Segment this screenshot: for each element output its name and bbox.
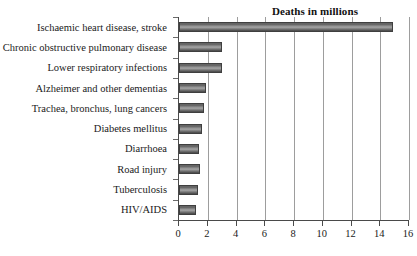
x-tick [379,221,380,226]
category-label: Trachea, bronchus, lung cancers [0,98,172,118]
x-tick-label: 10 [317,228,328,239]
bar [179,63,222,73]
x-tick-label: 6 [262,228,267,239]
x-tick [351,221,352,226]
chart-title: Deaths in millions [240,5,390,17]
gridline [409,17,410,220]
x-tick [408,221,409,226]
x-tick [264,221,265,226]
category-label: Ischaemic heart disease, stroke [0,17,172,37]
category-axis-labels: Ischaemic heart disease, strokeChronic o… [0,17,172,220]
bar-row [179,98,409,118]
bar [179,164,200,174]
bar [179,22,393,32]
bar-row [179,78,409,98]
category-label: Tuberculosis [0,179,172,199]
bar [179,205,196,215]
category-label: HIV/AIDS [0,200,172,220]
bar [179,42,222,52]
bar-series [179,17,409,220]
x-tick-label: 2 [204,228,209,239]
bar-row [179,179,409,199]
bar [179,103,204,113]
bar [179,144,199,154]
x-tick [178,221,179,226]
x-axis-tick-labels: 0246810121416 [178,228,409,244]
bar-row [179,200,409,220]
bar-row [179,17,409,37]
category-label: Lower respiratory infections [0,58,172,78]
bar-chart: Deaths in millions Ischaemic heart disea… [0,0,417,256]
x-tick [322,221,323,226]
x-tick-label: 12 [345,228,356,239]
x-tick-label: 8 [290,228,295,239]
category-label: Alzheimer and other dementias [0,78,172,98]
category-label: Chronic obstructive pulmonary disease [0,37,172,57]
bar [179,124,202,134]
category-label: Diabetes mellitus [0,118,172,138]
bar-row [179,37,409,57]
x-tick [207,221,208,226]
category-label: Diarrhoea [0,139,172,159]
x-tick-label: 14 [374,228,385,239]
x-tick [236,221,237,226]
bar [179,185,198,195]
x-tick-label: 16 [403,228,414,239]
bar-row [179,159,409,179]
x-tick-label: 0 [175,228,180,239]
x-axis-tick-marks [178,221,409,226]
bar-row [179,139,409,159]
category-label: Road injury [0,159,172,179]
bar [179,83,206,93]
bar-row [179,118,409,138]
plot-area [178,17,410,220]
x-tick [293,221,294,226]
x-tick-label: 4 [233,228,238,239]
bar-row [179,58,409,78]
